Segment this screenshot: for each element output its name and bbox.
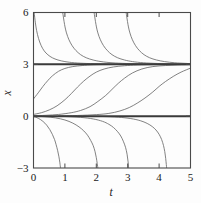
x-tick-label: 5 bbox=[188, 171, 194, 183]
plot-canvas: 012345 −3036 t x bbox=[0, 0, 201, 203]
y-tick-label: 0 bbox=[23, 110, 29, 122]
x-tick-label: 2 bbox=[94, 171, 100, 183]
y-axis-title: x bbox=[1, 90, 13, 97]
x-tick-label: 1 bbox=[62, 171, 68, 183]
y-tick-label: 3 bbox=[23, 58, 29, 70]
x-tick-label: 3 bbox=[125, 171, 131, 183]
y-tick-label: 6 bbox=[23, 6, 29, 18]
x-tick-label: 0 bbox=[31, 171, 37, 183]
y-tick-label: −3 bbox=[17, 162, 29, 174]
x-tick-label: 4 bbox=[156, 171, 162, 183]
solution-curves-figure: 012345 −3036 t x bbox=[0, 0, 201, 203]
